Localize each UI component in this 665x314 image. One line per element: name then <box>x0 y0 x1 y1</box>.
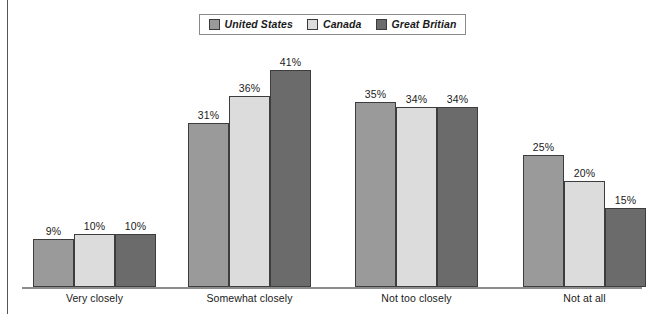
bar-value-label: 10% <box>84 220 105 232</box>
bar[interactable] <box>229 96 270 287</box>
bar-item[interactable]: 10% <box>74 220 115 287</box>
bar-group-bars: 9%10%10% <box>33 220 156 287</box>
x-axis-category-label: Not too closely <box>355 292 478 304</box>
bar-value-label: 10% <box>125 220 146 232</box>
bar[interactable] <box>523 155 564 288</box>
bar[interactable] <box>270 70 311 287</box>
x-axis-category-label: Very closely <box>33 292 156 304</box>
bar-item[interactable]: 10% <box>115 220 156 287</box>
bar-value-label: 41% <box>280 56 301 68</box>
bar-value-label: 34% <box>447 93 468 105</box>
bar-group-bars: 25%20%15% <box>523 141 646 288</box>
bar[interactable] <box>437 107 478 287</box>
bar-group: 31%36%41%Somewhat closely <box>188 0 311 314</box>
bar-item[interactable]: 34% <box>396 93 437 287</box>
bar-value-label: 25% <box>533 141 554 153</box>
bar-item[interactable]: 35% <box>355 88 396 288</box>
bar-group: 9%10%10%Very closely <box>33 0 156 314</box>
bar[interactable] <box>33 239 74 287</box>
bar-value-label: 35% <box>365 88 386 100</box>
bar-value-label: 15% <box>615 194 636 206</box>
bar[interactable] <box>564 181 605 287</box>
x-axis-category-label: Somewhat closely <box>188 292 311 304</box>
bar-value-label: 36% <box>239 82 260 94</box>
bar-value-label: 9% <box>46 225 61 237</box>
bar-item[interactable]: 31% <box>188 109 229 287</box>
bar-item[interactable]: 41% <box>270 56 311 287</box>
bar[interactable] <box>115 234 156 287</box>
bar-item[interactable]: 9% <box>33 225 74 287</box>
bar-value-label: 31% <box>198 109 219 121</box>
bar[interactable] <box>188 123 229 287</box>
bar[interactable] <box>355 102 396 288</box>
plot-area: 9%10%10%Very closely31%36%41%Somewhat cl… <box>0 0 665 314</box>
bar-group-bars: 35%34%34% <box>355 88 478 288</box>
bar[interactable] <box>74 234 115 287</box>
bar[interactable] <box>605 208 646 288</box>
chart-page: United StatesCanadaGreat Britian 9%10%10… <box>0 0 665 314</box>
bar-item[interactable]: 36% <box>229 82 270 287</box>
bar-item[interactable]: 20% <box>564 167 605 287</box>
x-axis-category-label: Not at all <box>523 292 646 304</box>
bar-item[interactable]: 15% <box>605 194 646 288</box>
bar-group: 25%20%15%Not at all <box>523 0 646 314</box>
bar-group-bars: 31%36%41% <box>188 56 311 287</box>
bar-value-label: 34% <box>406 93 427 105</box>
bar-value-label: 20% <box>574 167 595 179</box>
bar-item[interactable]: 34% <box>437 93 478 287</box>
bar[interactable] <box>396 107 437 287</box>
bar-item[interactable]: 25% <box>523 141 564 288</box>
bar-group: 35%34%34%Not too closely <box>355 0 478 314</box>
